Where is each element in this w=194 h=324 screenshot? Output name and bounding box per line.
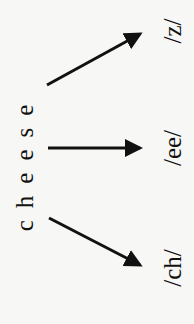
arrow-to-ch <box>49 218 140 265</box>
phoneme-ch: /ch/ <box>160 249 185 287</box>
phoneme-z: /z/ <box>160 19 185 44</box>
phoneme-ee: /ee/ <box>160 130 185 166</box>
arrow-to-z <box>47 34 140 85</box>
